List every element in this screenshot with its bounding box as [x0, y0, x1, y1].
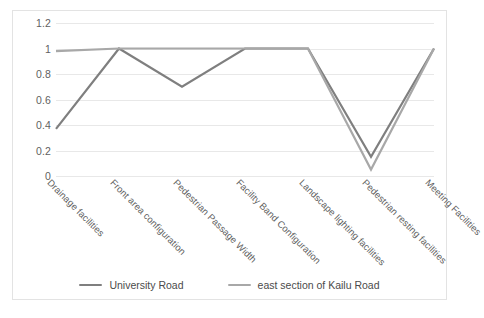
chart-legend: University Roadeast section of Kailu Roa… [13, 279, 446, 291]
plot-area [56, 23, 434, 176]
chart-container: 00.20.40.60.811.2 Drainage facilitiesFro… [12, 10, 447, 300]
legend-item[interactable]: east section of Kailu Road [228, 279, 380, 291]
x-axis-category-label: Drainage facilities [45, 177, 106, 238]
y-axis: 00.20.40.60.811.2 [13, 23, 51, 176]
legend-line-swatch [79, 284, 102, 287]
y-axis-tick-label: 0.6 [36, 94, 51, 106]
y-axis-tick-label: 0.4 [36, 119, 51, 131]
series-line [56, 49, 434, 157]
y-axis-tick-label: 0.2 [36, 145, 51, 157]
y-axis-tick-label: 0.8 [36, 68, 51, 80]
y-axis-tick-label: 1.2 [36, 17, 51, 29]
series-line [56, 49, 434, 170]
y-axis-tick-label: 1 [45, 43, 51, 55]
legend-label: east section of Kailu Road [258, 279, 380, 291]
series-lines [56, 23, 434, 176]
legend-line-swatch [228, 284, 251, 287]
legend-item[interactable]: University Road [79, 279, 183, 291]
x-axis: Drainage facilitiesFront area configurat… [56, 177, 434, 287]
x-axis-category-label: Meeting Facilities [423, 177, 483, 237]
legend-label: University Road [109, 279, 183, 291]
